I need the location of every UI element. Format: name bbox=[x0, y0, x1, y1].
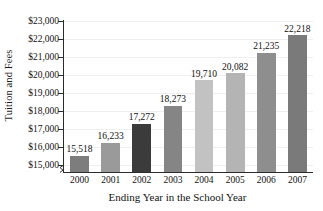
y-axis-tick-label: $15,000 bbox=[28, 160, 59, 170]
bar-2002[interactable]: 17,272 bbox=[132, 124, 151, 172]
y-axis-tick-mark bbox=[58, 147, 63, 148]
gridline bbox=[64, 111, 313, 112]
bar-value-label: 16,233 bbox=[98, 131, 124, 141]
bar-2003[interactable]: 18,273 bbox=[164, 106, 183, 172]
y-axis-tick-mark bbox=[58, 165, 63, 166]
bar-value-label: 19,710 bbox=[191, 69, 217, 79]
x-axis-line bbox=[63, 172, 313, 173]
x-axis-tick-label: 2001 bbox=[101, 175, 120, 185]
plot-area: 15,51816,23317,27218,27319,71020,08221,2… bbox=[64, 21, 313, 172]
y-axis-tick-mark bbox=[58, 111, 63, 112]
gridline bbox=[64, 93, 313, 94]
tuition-and-fees-bar-chart: Tuition and Fees $15,000$16,000$17,000$1… bbox=[0, 0, 323, 211]
y-axis-line bbox=[63, 20, 64, 173]
x-axis-title: Ending Year in the School Year bbox=[40, 191, 315, 203]
y-axis-tick-mark bbox=[58, 39, 63, 40]
y-axis-title-label: Tuition and Fees bbox=[4, 49, 15, 121]
gridline bbox=[64, 39, 313, 40]
y-axis-tick-label: $17,000 bbox=[28, 124, 59, 134]
bar-value-label: 17,272 bbox=[129, 112, 155, 122]
gridline bbox=[64, 75, 313, 76]
bar-2001[interactable]: 16,233 bbox=[101, 143, 120, 172]
bar-value-label: 15,518 bbox=[66, 144, 92, 154]
bar-value-label: 20,082 bbox=[222, 62, 248, 72]
y-axis-tick-label: $19,000 bbox=[28, 88, 59, 98]
x-axis-tick-label: 2004 bbox=[195, 175, 214, 185]
bar-value-label: 18,273 bbox=[160, 94, 186, 104]
bar-2004[interactable]: 19,710 bbox=[195, 80, 214, 172]
x-axis-tick-label: 2005 bbox=[226, 175, 245, 185]
bar-2000[interactable]: 15,518 bbox=[70, 156, 89, 173]
y-axis-tick-label: $23,000 bbox=[28, 16, 59, 26]
y-axis-tick-mark bbox=[58, 75, 63, 76]
x-axis-tick-labels: 20002001200220032004200520062007 bbox=[64, 175, 313, 189]
gridline bbox=[64, 129, 313, 130]
y-axis-tick-label: $20,000 bbox=[28, 70, 59, 80]
x-axis-tick-label: 2003 bbox=[163, 175, 182, 185]
bar-2006[interactable]: 21,235 bbox=[257, 53, 276, 172]
x-axis-tick-label: 2006 bbox=[257, 175, 276, 185]
gridline bbox=[64, 21, 313, 22]
bar-2007[interactable]: 22,218 bbox=[288, 35, 307, 172]
x-axis-tick-label: 2002 bbox=[132, 175, 151, 185]
y-axis-tick-labels: $15,000$16,000$17,000$18,000$19,000$20,0… bbox=[16, 21, 62, 172]
bar-value-label: 21,235 bbox=[253, 41, 279, 51]
y-axis-tick-label: $18,000 bbox=[28, 106, 59, 116]
y-axis-tick-label: $22,000 bbox=[28, 34, 59, 44]
y-axis-tick-mark bbox=[58, 21, 63, 22]
y-axis-tick-label: $21,000 bbox=[28, 52, 59, 62]
x-axis-tick-label: 2000 bbox=[70, 175, 89, 185]
y-axis-tick-mark bbox=[58, 57, 63, 58]
gridline bbox=[64, 57, 313, 58]
x-axis-tick-label: 2007 bbox=[288, 175, 307, 185]
y-axis-tick-mark bbox=[58, 129, 63, 130]
y-axis-tick-label: $16,000 bbox=[28, 142, 59, 152]
bar-value-label: 22,218 bbox=[284, 24, 310, 34]
y-axis-tick-mark bbox=[58, 93, 63, 94]
bar-2005[interactable]: 20,082 bbox=[226, 73, 245, 172]
